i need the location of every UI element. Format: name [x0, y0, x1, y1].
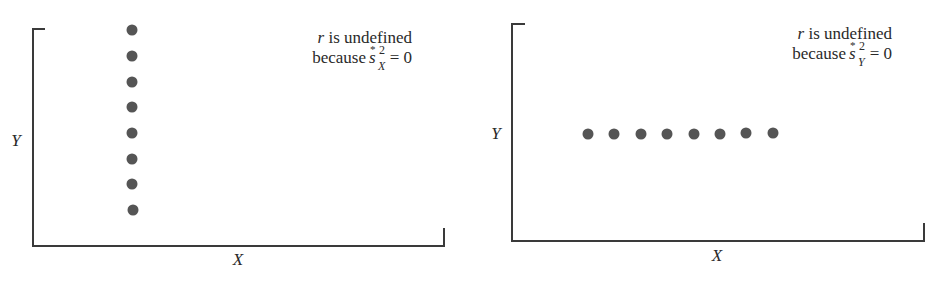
data-point: [583, 129, 594, 140]
x-axis-label: X: [233, 250, 243, 270]
data-point: [609, 129, 620, 140]
x-axis-right-tick: [443, 228, 445, 247]
y-axis-top-tick: [32, 28, 45, 30]
data-point: [128, 205, 139, 216]
annotation: r is undefined because*s2X= 0: [312, 28, 412, 68]
annotation-line-1: r is undefined: [312, 28, 412, 48]
data-point: [715, 129, 726, 140]
variance-symbol: *s2Y: [849, 44, 868, 64]
annotation-line-1: r is undefined: [792, 24, 892, 44]
y-axis-line: [32, 28, 34, 247]
data-point: [127, 128, 138, 139]
annotation: r is undefined because*s2Y= 0: [792, 24, 892, 64]
data-point: [662, 129, 673, 140]
data-point: [127, 77, 138, 88]
data-point: [127, 102, 138, 113]
data-point: [127, 25, 138, 36]
x-axis-right-tick: [923, 223, 925, 242]
data-point: [127, 179, 138, 190]
y-axis-label: Y: [11, 131, 20, 151]
data-point: [127, 154, 138, 165]
data-point: [127, 51, 138, 62]
annotation-line-2: because*s2Y= 0: [792, 44, 892, 64]
scatter-plot-right: Y X r is undefined because*s2Y= 0: [465, 0, 931, 288]
data-point: [689, 129, 700, 140]
y-axis-top-tick: [511, 23, 525, 25]
y-axis-line: [511, 23, 513, 242]
data-point: [636, 129, 647, 140]
y-axis-label: Y: [491, 124, 500, 144]
data-point: [768, 128, 779, 139]
x-axis-line: [511, 240, 925, 242]
x-axis-line: [32, 245, 445, 247]
variance-symbol: *s2X: [369, 48, 388, 68]
data-point: [741, 128, 752, 139]
x-axis-label: X: [712, 246, 722, 266]
scatter-plot-left: Y X r is undefined because*s2X= 0: [0, 0, 465, 288]
annotation-line-2: because*s2X= 0: [312, 48, 412, 68]
